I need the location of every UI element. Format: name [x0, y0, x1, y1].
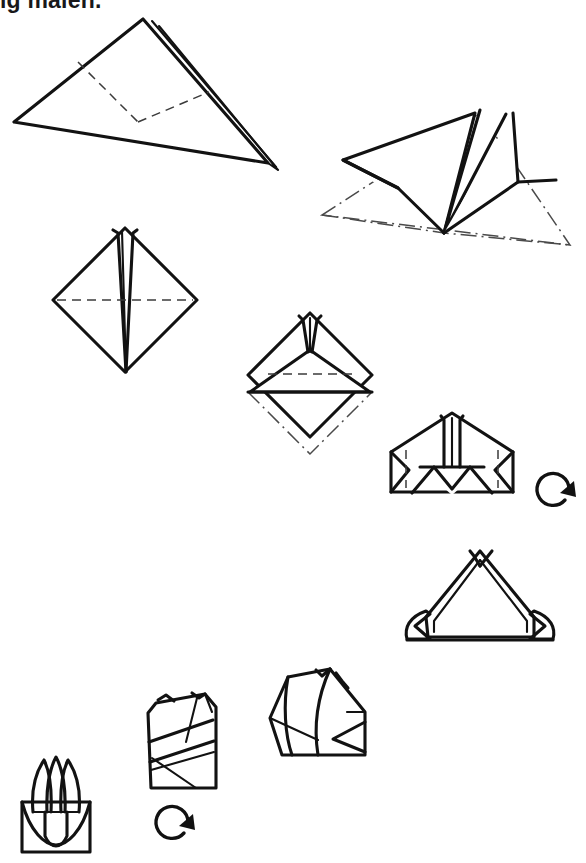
step-1-folded-triangle-with-fold-lines: [14, 19, 278, 170]
origami-diagram-sheet: ig malen.: [0, 0, 586, 863]
turn-over-arrow-step-5: [537, 473, 576, 505]
turn-over-arrow-step-8: [156, 806, 195, 838]
step-9-finished-tulip: [22, 757, 90, 852]
origami-diagram-canvas: [0, 0, 586, 863]
step-2-right-wing-edge: [518, 180, 556, 182]
step-5-pentagon-with-inner-triangle: [391, 413, 513, 495]
step-2-three-dimensional-lift: [322, 110, 570, 245]
step-8-wrapped-bundle: [148, 693, 216, 788]
step-6-triangle-with-curled-side-flaps: [406, 551, 554, 640]
step-7-wrapped-form-three-quarter-view: [270, 669, 365, 755]
step-4-diamond-bottom-point-folded-up: [248, 313, 372, 454]
step-3-diamond-with-center-spike: [53, 228, 197, 372]
